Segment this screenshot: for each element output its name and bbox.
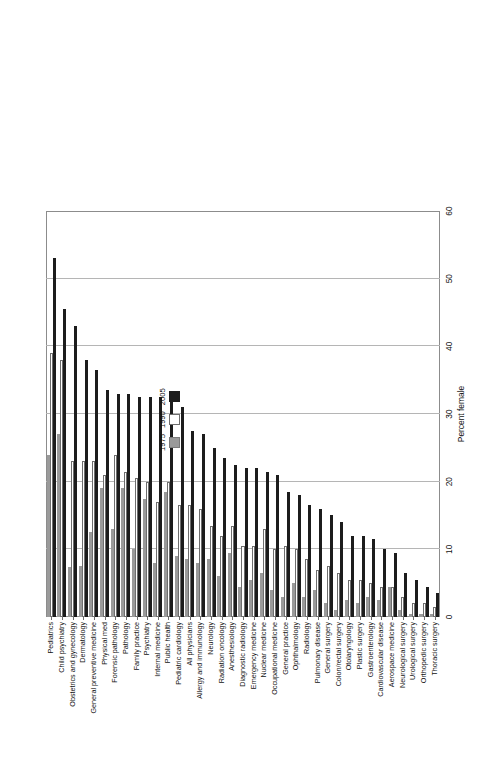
bar-group — [46, 211, 57, 617]
category-tick — [93, 617, 94, 620]
bar-group — [237, 211, 248, 617]
bar — [350, 536, 353, 617]
category-tick — [264, 617, 265, 620]
bar — [255, 468, 258, 617]
bar-group — [290, 211, 301, 617]
legend-item-2005: 2005 — [158, 388, 180, 405]
bar — [425, 587, 428, 617]
value-tick-label: 60 — [444, 206, 454, 215]
gray-swatch-icon — [169, 437, 180, 448]
category-label: Forensic pathology — [110, 622, 120, 683]
bar-group — [248, 211, 259, 617]
category-label: Gastroenterology — [365, 622, 375, 677]
bar-group — [120, 211, 131, 617]
category-tick — [211, 617, 212, 620]
category-label: Pulmonary disease — [312, 622, 322, 683]
bar — [106, 390, 109, 617]
category-label: Anesthesiology — [227, 622, 237, 671]
category-label: Aerospace medicine — [387, 622, 397, 687]
bar-group — [429, 211, 440, 617]
bar — [287, 492, 290, 617]
category-tick — [147, 617, 148, 620]
category-tick — [349, 617, 350, 620]
category-tick — [434, 617, 435, 620]
bar — [265, 472, 268, 617]
category-label: Public health — [163, 622, 173, 663]
bar-group — [344, 211, 355, 617]
bar — [414, 580, 417, 617]
bar-group — [301, 211, 312, 617]
bar — [180, 407, 183, 617]
category-label: Otolaryngology — [344, 622, 354, 670]
category-tick — [402, 617, 403, 620]
black-swatch-icon — [169, 391, 180, 402]
category-tick — [285, 617, 286, 620]
category-label: Radiation oncology — [216, 622, 226, 683]
bar-group — [56, 211, 67, 617]
bar — [382, 549, 385, 617]
bar — [84, 360, 87, 617]
category-label: Internal medicine — [152, 622, 162, 677]
category-label: Occupational medicine — [269, 622, 279, 695]
bar — [244, 468, 247, 617]
bar-group — [141, 211, 152, 617]
category-tick — [392, 617, 393, 620]
bar — [95, 370, 98, 617]
category-tick — [274, 617, 275, 620]
category-tick — [232, 617, 233, 620]
bar-series-layer — [46, 211, 440, 617]
bar-group — [354, 211, 365, 617]
category-tick — [360, 617, 361, 620]
category-tick — [413, 617, 414, 620]
value-tick-label: 40 — [444, 342, 454, 351]
legend-label-1975: 1975 — [158, 434, 167, 451]
category-label: Neurological surgery — [397, 622, 407, 688]
bar-group — [99, 211, 110, 617]
category-tick — [370, 617, 371, 620]
category-tick — [253, 617, 254, 620]
bar-group — [312, 211, 323, 617]
bar-group — [322, 211, 333, 617]
category-tick — [381, 617, 382, 620]
bar — [148, 397, 151, 617]
bar-group — [216, 211, 227, 617]
bar — [74, 326, 77, 617]
category-tick — [168, 617, 169, 620]
bar — [127, 394, 130, 617]
chart-stage: PediatricsChild psychiatryObstetrics and… — [38, 79, 448, 689]
bar — [116, 394, 119, 617]
bar-group — [333, 211, 344, 617]
bar-group — [365, 211, 376, 617]
category-tick — [136, 617, 137, 620]
bar — [52, 258, 55, 617]
value-tick-label: 0 — [444, 615, 454, 620]
bar-group — [386, 211, 397, 617]
bar — [138, 397, 141, 617]
white-swatch-icon — [169, 414, 180, 425]
value-tick-label: 10 — [444, 545, 454, 554]
category-label: Pediatrics — [46, 622, 56, 654]
bar — [223, 458, 226, 617]
category-tick — [83, 617, 84, 620]
bar — [191, 431, 194, 617]
category-label: All physicians — [184, 622, 194, 666]
bar — [233, 465, 236, 617]
legend-item-1990: 1990 — [158, 411, 180, 428]
bar-group — [109, 211, 120, 617]
bar-group — [184, 211, 195, 617]
category-label: Obstetrics and gynecology — [67, 622, 77, 707]
category-tick — [51, 617, 52, 620]
category-label: Physical med — [99, 622, 109, 665]
bar-group — [269, 211, 280, 617]
bar — [297, 495, 300, 617]
legend-label-2005: 2005 — [158, 388, 167, 405]
bar-group — [376, 211, 387, 617]
category-label: Orthopedic surgery — [419, 622, 429, 683]
bar-group — [397, 211, 408, 617]
bar — [361, 536, 364, 617]
legend-item-1975: 1975 — [158, 434, 180, 451]
category-label: Child psychiatry — [56, 622, 66, 673]
bar-group — [258, 211, 269, 617]
category-tick — [115, 617, 116, 620]
category-label: Diagnostic radiology — [238, 622, 248, 687]
